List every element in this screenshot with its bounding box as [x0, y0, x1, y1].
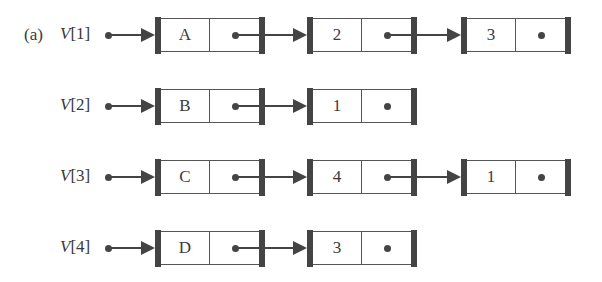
node-value: D — [161, 232, 209, 264]
node-divider — [209, 19, 210, 51]
next-pointer-dot — [384, 103, 391, 110]
node-divider — [209, 161, 210, 193]
next-pointer-dot — [384, 245, 391, 252]
vector-name: V — [60, 166, 70, 185]
vector-name: V — [60, 24, 70, 43]
next-pointer-line — [387, 176, 449, 178]
pointer-line — [108, 176, 143, 178]
vector-entry-label: V[4] — [60, 237, 90, 257]
figure-label: (a) — [24, 25, 43, 45]
next-pointer-dot — [538, 32, 545, 39]
vector-name: V — [60, 95, 70, 114]
node-divider — [361, 19, 362, 51]
arrowhead-icon — [447, 170, 461, 184]
vector-index: [2] — [70, 95, 90, 114]
node-value: A — [161, 19, 209, 51]
vector-name: V — [60, 237, 70, 256]
vector-index: [4] — [70, 237, 90, 256]
node-right-bar — [411, 88, 417, 125]
node-value: 4 — [313, 161, 361, 193]
next-pointer-line — [387, 34, 449, 36]
next-pointer-line — [235, 247, 295, 249]
pointer-line — [108, 34, 143, 36]
node-value: 3 — [467, 19, 515, 51]
node-divider — [515, 161, 516, 193]
vector-entry-label: V[2] — [60, 95, 90, 115]
vector-index: [1] — [70, 24, 90, 43]
arrowhead-icon — [293, 170, 307, 184]
node-value: B — [161, 90, 209, 122]
vector-index: [3] — [70, 166, 90, 185]
pointer-line — [108, 247, 143, 249]
node-right-bar — [565, 159, 571, 196]
arrowhead-icon — [141, 241, 155, 255]
arrowhead-icon — [293, 99, 307, 113]
node-value: 2 — [313, 19, 361, 51]
arrowhead-icon — [141, 170, 155, 184]
arrowhead-icon — [293, 241, 307, 255]
node-divider — [361, 90, 362, 122]
list-node: 1 — [307, 89, 417, 123]
next-pointer-line — [235, 176, 295, 178]
node-value: 1 — [313, 90, 361, 122]
arrowhead-icon — [141, 28, 155, 42]
node-divider — [361, 232, 362, 264]
list-node: 3 — [307, 231, 417, 265]
arrowhead-icon — [141, 99, 155, 113]
node-value: 3 — [313, 232, 361, 264]
node-value: C — [161, 161, 209, 193]
node-divider — [515, 19, 516, 51]
node-divider — [209, 90, 210, 122]
pointer-line — [108, 105, 143, 107]
arrowhead-icon — [293, 28, 307, 42]
node-right-bar — [411, 230, 417, 267]
vector-entry-label: V[3] — [60, 166, 90, 186]
node-value: 1 — [467, 161, 515, 193]
list-node: 1 — [461, 160, 571, 194]
vector-entry-label: V[1] — [60, 24, 90, 44]
arrowhead-icon — [447, 28, 461, 42]
node-divider — [361, 161, 362, 193]
next-pointer-line — [235, 34, 295, 36]
node-divider — [209, 232, 210, 264]
list-node: 3 — [461, 18, 571, 52]
next-pointer-dot — [538, 174, 545, 181]
node-right-bar — [565, 17, 571, 54]
next-pointer-line — [235, 105, 295, 107]
